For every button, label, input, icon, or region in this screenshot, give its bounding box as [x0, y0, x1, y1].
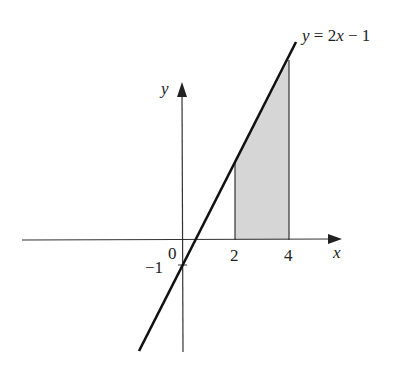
y-tick-label-minus-1: −1: [145, 258, 163, 277]
y-axis-arrow-icon: [177, 82, 187, 97]
x-axis-label: x: [332, 243, 341, 262]
y-axis: [182, 92, 183, 352]
x-tick-label-2: 2: [230, 246, 239, 265]
y-axis-label: y: [159, 79, 169, 98]
origin-label: 0: [168, 244, 177, 263]
equation-label: y = 2x − 1: [300, 26, 370, 45]
diagram: y = 2x − 1 y x 0 −1 2 4: [0, 0, 412, 392]
x-tick-label-4: 4: [284, 246, 293, 265]
shaded-region: [235, 60, 289, 240]
